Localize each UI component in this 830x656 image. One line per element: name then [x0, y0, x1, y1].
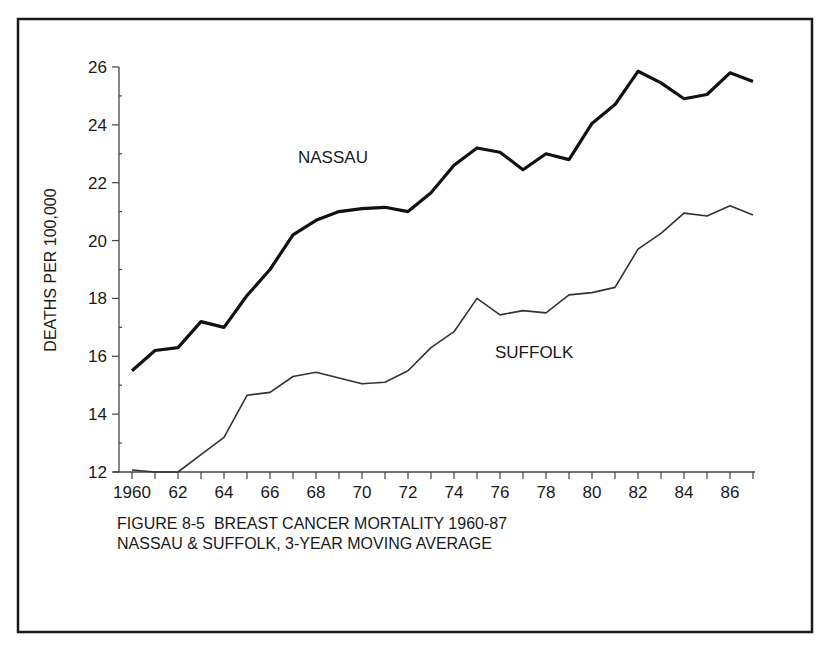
y-tick-label: 14: [88, 405, 107, 424]
x-tick-label: 68: [307, 483, 326, 502]
x-tick-label: 74: [445, 483, 464, 502]
chart-figure: 1214161820222426196062646668707274767880…: [0, 0, 830, 656]
x-tick-label: 86: [721, 483, 740, 502]
x-tick-label: 78: [537, 483, 556, 502]
series-label-suffolk: SUFFOLK: [495, 343, 574, 362]
x-tick-label: 64: [215, 483, 234, 502]
x-tick-label: 76: [491, 483, 510, 502]
y-tick-label: 12: [88, 463, 107, 482]
y-tick-label: 24: [88, 116, 107, 135]
caption-title: FIGURE 8-5 BREAST CANCER MORTALITY 1960-…: [117, 514, 507, 534]
series-label-nassau: NASSAU: [298, 148, 368, 167]
caption-subtitle: NASSAU & SUFFOLK, 3-YEAR MOVING AVERAGE: [117, 534, 507, 554]
x-tick-label: 72: [399, 483, 418, 502]
y-tick-label: 18: [88, 289, 107, 308]
y-tick-label: 22: [88, 174, 107, 193]
chart-labels: DEATHS PER 100,000 NASSAU SUFFOLK: [42, 148, 574, 362]
y-tick-label: 16: [88, 347, 107, 366]
series-line-nassau: [132, 71, 753, 370]
x-tick-label: 70: [353, 483, 372, 502]
x-tick-label: 84: [675, 483, 694, 502]
x-tick-label: 66: [261, 483, 280, 502]
figure-caption: FIGURE 8-5 BREAST CANCER MORTALITY 1960-…: [117, 514, 507, 554]
y-axis-title: DEATHS PER 100,000: [42, 188, 59, 351]
chart-series: [132, 71, 753, 472]
x-tick-label: 62: [169, 483, 188, 502]
x-tick-label: 80: [583, 483, 602, 502]
x-tick-label: 82: [629, 483, 648, 502]
y-tick-label: 20: [88, 232, 107, 251]
chart-axes: 1214161820222426196062646668707274767880…: [88, 58, 755, 502]
series-line-suffolk: [132, 206, 753, 472]
x-tick-label: 1960: [113, 483, 151, 502]
y-tick-label: 26: [88, 58, 107, 77]
